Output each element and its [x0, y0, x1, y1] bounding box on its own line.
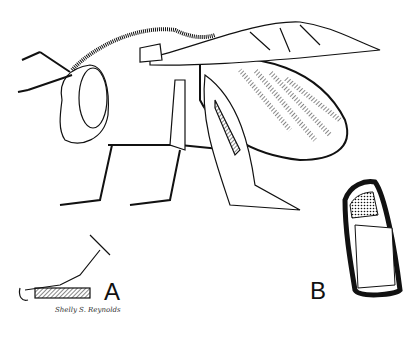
detail-b-cell — [345, 182, 400, 295]
artist-signature: Shelly S. Reynolds — [55, 306, 121, 314]
label-b: B — [310, 277, 326, 305]
figure-canvas: A B Shelly S. Reynolds — [0, 0, 418, 344]
bee-illustration — [0, 0, 418, 344]
label-a: A — [104, 278, 120, 306]
detail-a-leg — [19, 235, 110, 300]
bee-body — [18, 22, 380, 210]
